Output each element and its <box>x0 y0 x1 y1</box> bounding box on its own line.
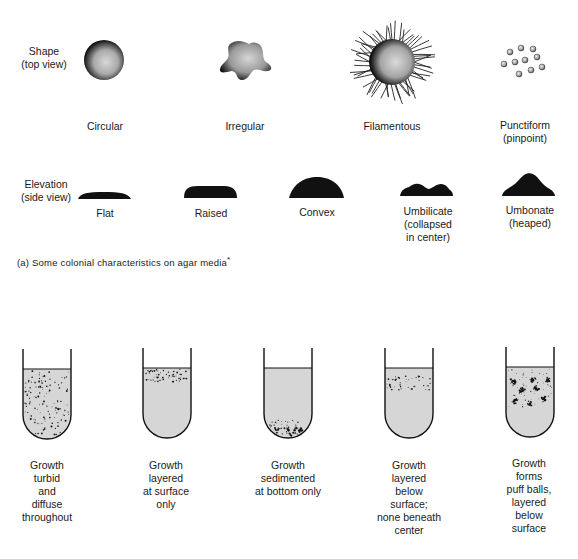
label-text: Circular <box>70 120 140 133</box>
tube-label-line: Growth <box>354 459 464 472</box>
tube-label-turbid: Growthturbidanddiffusethroughout <box>0 459 102 524</box>
tube-label-line: throughout <box>0 511 102 524</box>
shape-label-irregular: Irregular <box>210 120 280 133</box>
shape-label-line1: Shape <box>16 45 72 58</box>
flat-elevation-icon <box>78 188 132 200</box>
label-text: (heaped) <box>494 217 566 230</box>
label-text: Umbilicate <box>392 205 464 218</box>
tube-label-line: layered <box>474 496 578 509</box>
label-text: Umbonate <box>494 204 566 217</box>
tube-label-line: sedimented <box>233 472 343 485</box>
label-text: Convex <box>282 206 352 219</box>
shape-label-circular: Circular <box>70 120 140 133</box>
tube-label-line: at surface <box>111 485 221 498</box>
umbonate-elevation-icon <box>502 171 556 197</box>
tube-subsurface-layer-icon <box>383 348 435 440</box>
tube-label-line: surface <box>474 522 578 535</box>
label-text: Raised <box>176 207 246 220</box>
tube-label-line: and <box>0 485 102 498</box>
punctiform-colonies-icon <box>500 42 550 82</box>
elevation-label-convex: Convex <box>282 206 352 219</box>
label-text: Irregular <box>210 120 280 133</box>
shape-label-filamentous: Filamentous <box>352 120 432 133</box>
elevation-label-line2: (side view) <box>16 191 76 204</box>
tube-puff-balls-icon <box>504 347 556 439</box>
irregular-colony-icon <box>218 38 274 86</box>
tube-label-puff-balls: Growthformspuff balls,layeredbelowsurfac… <box>474 457 578 535</box>
tube-label-line: below <box>474 509 578 522</box>
filamentous-colony-icon <box>349 17 435 103</box>
caption-text: (a) Some colonial characteristics on aga… <box>17 257 227 268</box>
tube-label-sediment: Growthsedimentedat bottom only <box>233 459 343 498</box>
tube-label-line: layered <box>111 472 221 485</box>
umbilicate-elevation-icon <box>400 181 454 197</box>
label-text: (pinpoint) <box>490 132 560 145</box>
tube-label-line: Growth <box>233 459 343 472</box>
tube-label-line: below <box>354 485 464 498</box>
tube-label-line: at bottom only <box>233 485 343 498</box>
label-text: in center) <box>392 231 464 244</box>
convex-elevation-icon <box>289 175 345 199</box>
tube-label-line: Growth <box>111 459 221 472</box>
tube-label-line: turbid <box>0 472 102 485</box>
shape-row-label: Shape (top view) <box>16 45 72 71</box>
tube-label-line: layered <box>354 472 464 485</box>
tube-surface-layer-icon <box>141 348 193 440</box>
tube-turbid-diffuse-icon <box>21 349 73 441</box>
tube-label-line: Growth <box>0 459 102 472</box>
tube-label-line: center <box>354 524 464 537</box>
circular-colony-icon <box>82 38 126 82</box>
tube-label-line: Growth <box>474 457 578 470</box>
tube-sedimented-icon <box>262 348 314 440</box>
elevation-label-line1: Elevation <box>16 178 76 191</box>
elevation-label-flat: Flat <box>70 207 140 220</box>
label-text: Flat <box>70 207 140 220</box>
label-text: (collapsed <box>392 218 464 231</box>
elevation-label-raised: Raised <box>176 207 246 220</box>
tube-label-line: surface; <box>354 498 464 511</box>
tube-label-line: none beneath <box>354 511 464 524</box>
elevation-label-umbilicate: Umbilicate (collapsed in center) <box>392 205 464 244</box>
tube-label-line: forms <box>474 470 578 483</box>
raised-elevation-icon <box>184 183 238 199</box>
tube-label-line: diffuse <box>0 498 102 511</box>
tube-label-surface: Growthlayeredat surfaceonly <box>111 459 221 511</box>
elevation-label-umbonate: Umbonate (heaped) <box>494 204 566 230</box>
shape-label-punctiform: Punctiform (pinpoint) <box>490 119 560 145</box>
tube-label-subsurface: Growthlayeredbelowsurface;none beneathce… <box>354 459 464 537</box>
elevation-row-label: Elevation (side view) <box>16 178 76 204</box>
label-text: Filamentous <box>352 120 432 133</box>
caption-footnote-mark: * <box>227 255 230 264</box>
tube-label-line: only <box>111 498 221 511</box>
label-text: Punctiform <box>490 119 560 132</box>
figure-caption-a: (a) Some colonial characteristics on aga… <box>17 255 230 268</box>
tube-label-line: puff balls, <box>474 483 578 496</box>
shape-label-line2: (top view) <box>16 58 72 71</box>
